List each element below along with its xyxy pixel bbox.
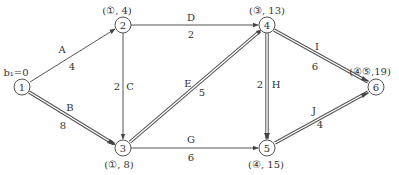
edge-d: D 2 — [131, 12, 258, 40]
edge-i-name: I — [315, 41, 319, 52]
edge-h-weight: 2 — [257, 79, 263, 90]
edge-c-weight: 2 — [114, 81, 120, 92]
edge-d-name: D — [187, 12, 195, 23]
node-2-number: 2 — [120, 20, 126, 31]
node-6: 6 — [368, 79, 384, 95]
edge-e-weight: 5 — [199, 87, 205, 98]
node-6-number: 6 — [373, 82, 379, 93]
node-4-label: (③, 13) — [249, 5, 285, 16]
node-5-number: 5 — [264, 143, 270, 154]
node-1-number: 1 — [19, 82, 25, 93]
node-5-label: (④, 15) — [248, 159, 284, 170]
edge-g: G 6 — [131, 134, 258, 163]
edge-a-weight: 4 — [69, 61, 75, 72]
edge-g-weight: 6 — [188, 152, 194, 163]
edge-a: A 4 — [30, 29, 115, 82]
node-1: 1 — [14, 79, 30, 95]
edge-a-name: A — [57, 44, 66, 55]
edge-b: B 8 — [29, 92, 115, 145]
edge-b-weight: 8 — [60, 120, 66, 131]
start-label: b₁=0 — [3, 67, 28, 78]
edge-d-weight: 2 — [188, 29, 194, 40]
edge-c-name: C — [126, 81, 134, 92]
edge-e: E 5 — [130, 31, 260, 142]
node-5: 5 — [259, 140, 275, 156]
edge-j-name: J — [311, 105, 316, 116]
edge-h-name: H — [272, 79, 281, 90]
node-2: 2 — [115, 17, 131, 33]
edge-i-weight: 6 — [312, 61, 318, 72]
node-4: 4 — [259, 17, 275, 33]
edge-e-name: E — [184, 78, 191, 89]
network-diagram: A 4 B 8 2 C D 2 E 5 G 6 2 H — [0, 0, 399, 175]
edge-h: 2 H — [257, 33, 281, 139]
node-3-label: (①, 8) — [104, 159, 134, 170]
edge-g-name: G — [187, 134, 195, 145]
node-3: 3 — [115, 140, 131, 156]
node-4-number: 4 — [264, 20, 270, 31]
edge-c: 2 C — [114, 33, 134, 139]
node-2-label: (①, 4) — [102, 5, 132, 16]
node-3-number: 3 — [120, 143, 126, 154]
edge-b-name: B — [66, 102, 73, 113]
edge-j-weight: 4 — [317, 119, 323, 130]
node-6-label: (④⑤,19) — [349, 66, 391, 77]
edge-j: J 4 — [275, 92, 368, 143]
